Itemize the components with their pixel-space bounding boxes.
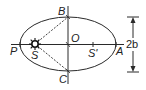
label-s-prime: S' [88,47,98,59]
orbit-diagram: B C O P S S' A 2b [0,0,146,90]
label-2b: 2b [126,38,138,50]
label-a: A [115,45,123,57]
label-b: B [58,5,65,17]
arrow-down-icon [131,66,136,72]
label-o: O [71,32,80,44]
label-c: C [59,73,67,85]
label-s: S [31,49,39,61]
dashed-line-sc [35,44,68,71]
arrow-up-icon [131,17,136,23]
dashed-line-sb [35,17,68,44]
label-p: P [10,45,18,57]
